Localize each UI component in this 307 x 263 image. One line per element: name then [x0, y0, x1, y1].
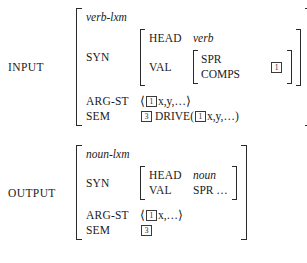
output-sem-value: 3	[140, 225, 153, 236]
input-head-row: HEAD verb	[148, 31, 292, 46]
output-val-feature-label: VAL	[148, 183, 193, 198]
output-argst-feature-label: ARG-ST	[85, 208, 140, 223]
input-val-avm-body: SPR COMPS 1	[198, 50, 287, 84]
output-feature-structure: OUTPUT noun-lxm SYN HEAD noun	[8, 145, 247, 240]
output-avm: noun-lxm SYN HEAD noun VAL	[76, 145, 247, 240]
output-argst-value: ⟨ 1 x,… ⟩	[140, 208, 183, 223]
output-type-name: noun-lxm	[85, 147, 237, 162]
output-sem-row: SEM 3	[85, 223, 237, 238]
input-outer-bracket-right	[305, 8, 307, 126]
input-argst-open-angle: ⟨	[140, 94, 145, 109]
output-sem-reentrancy-tag: 3	[141, 225, 152, 236]
input-head-feature-label: HEAD	[148, 31, 193, 46]
output-head-feature-label: HEAD	[148, 168, 193, 183]
input-syn-value: HEAD verb VAL	[140, 29, 301, 86]
input-argst-row: ARG-ST ⟨ 1 x,y,… ⟩	[85, 94, 301, 109]
output-syn-bracket-right	[232, 166, 237, 200]
input-head-value: verb	[193, 31, 213, 46]
input-syn-row: SYN HEAD verb VAL	[85, 29, 301, 86]
input-avm: verb-lxm SYN HEAD verb VAL	[76, 8, 307, 126]
output-argst-reentrancy-tag: 1	[146, 210, 157, 221]
output-head-row: HEAD noun	[148, 168, 228, 183]
input-val-matrix: SPR COMPS 1	[201, 52, 283, 82]
input-val-row: VAL SPR COMPS	[148, 50, 292, 84]
output-syn-avm: HEAD noun VAL SPR …	[140, 166, 237, 200]
input-argst-items: x,y,…	[158, 94, 186, 109]
output-sem-feature-label: SEM	[85, 223, 140, 238]
input-sem-argument-tag: 1	[195, 111, 206, 122]
output-avm-body: noun-lxm SYN HEAD noun VAL	[82, 145, 241, 240]
input-sem-reentrancy-tag: 3	[141, 111, 152, 122]
input-sem-predicate: DRIVE(	[155, 109, 194, 124]
output-syn-avm-body: HEAD noun VAL SPR …	[145, 166, 232, 200]
input-label: INPUT	[8, 61, 76, 73]
input-sem-feature-label: SEM	[85, 109, 140, 124]
output-argst-open-angle: ⟨	[140, 208, 145, 223]
output-val-row: VAL SPR …	[148, 183, 228, 198]
input-val-avm: SPR COMPS 1	[193, 50, 292, 84]
input-val-spr-label: SPR	[201, 52, 240, 67]
output-syn-row: SYN HEAD noun VAL SPR …	[85, 166, 237, 200]
input-argst-feature-label: ARG-ST	[85, 94, 140, 109]
input-val-reentrancy-tag: 1	[271, 62, 282, 73]
input-syn-avm-body: HEAD verb VAL	[145, 29, 296, 86]
output-argst-close-angle: ⟩	[178, 208, 183, 223]
input-val-value: SPR COMPS 1	[193, 50, 292, 84]
output-argst-items: x,…	[158, 208, 178, 223]
input-sem-value: 3 DRIVE( 1 x,y,…)	[140, 109, 239, 124]
input-sem-arguments: x,y,…)	[207, 109, 239, 124]
output-val-value: SPR …	[193, 183, 228, 198]
input-val-comps-label: COMPS	[201, 67, 240, 82]
output-head-value: noun	[193, 168, 216, 183]
spacer	[85, 200, 237, 204]
input-feature-structure: INPUT verb-lxm SYN HEAD verb	[8, 8, 307, 126]
input-syn-feature-label: SYN	[85, 50, 140, 65]
output-syn-value: HEAD noun VAL SPR …	[140, 166, 237, 200]
input-val-feature-label: VAL	[148, 60, 193, 75]
input-argst-close-angle: ⟩	[186, 94, 191, 109]
output-label: OUTPUT	[8, 187, 76, 199]
input-avm-body: verb-lxm SYN HEAD verb VAL	[82, 8, 305, 126]
input-type-name: verb-lxm	[85, 10, 301, 25]
input-syn-bracket-right	[296, 29, 301, 86]
input-sem-row: SEM 3 DRIVE( 1 x,y,…)	[85, 109, 301, 124]
input-val-keys: SPR COMPS	[201, 52, 240, 82]
input-argst-value: ⟨ 1 x,y,… ⟩	[140, 94, 191, 109]
input-val-tag-cell: 1	[240, 62, 283, 73]
output-syn-feature-label: SYN	[85, 176, 140, 191]
output-outer-bracket-right	[241, 145, 247, 240]
input-syn-avm: HEAD verb VAL	[140, 29, 301, 86]
input-val-bracket-right	[287, 50, 292, 84]
input-argst-reentrancy-tag: 1	[146, 96, 157, 107]
output-argst-row: ARG-ST ⟨ 1 x,… ⟩	[85, 208, 237, 223]
spacer	[85, 86, 301, 90]
